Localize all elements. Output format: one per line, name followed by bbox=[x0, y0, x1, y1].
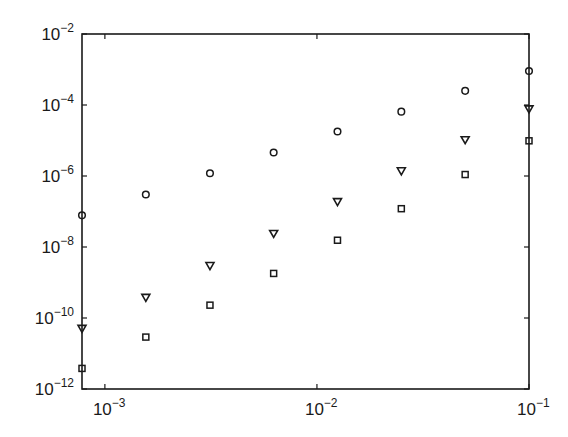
triangle-down-marker bbox=[270, 231, 278, 238]
triangle-down-marker bbox=[397, 168, 405, 175]
triangle-down-marker bbox=[333, 199, 341, 206]
y-tick-label: 10−6 bbox=[41, 163, 74, 186]
square-marker bbox=[271, 270, 277, 276]
circle-marker bbox=[334, 128, 341, 135]
log-log-scatter-chart: 10−310−210−1 10−210−410−610−810−1010−12 bbox=[0, 0, 568, 437]
square-marker bbox=[207, 302, 213, 308]
triangle-down-marker bbox=[142, 294, 150, 301]
x-tick-label: 10−1 bbox=[517, 396, 550, 419]
square-marker bbox=[398, 206, 404, 212]
circle-marker bbox=[398, 108, 405, 115]
y-tick-label: 10−12 bbox=[35, 376, 75, 399]
data-series bbox=[78, 68, 533, 372]
x-tick-label: 10−3 bbox=[93, 396, 126, 419]
x-axis-ticks: 10−310−210−1 bbox=[93, 34, 550, 419]
series-squares bbox=[79, 138, 532, 372]
circle-marker bbox=[462, 88, 469, 95]
triangle-down-marker bbox=[461, 137, 469, 144]
x-tick-label: 10−2 bbox=[305, 396, 338, 419]
y-tick-label: 10−2 bbox=[41, 21, 74, 44]
circle-marker bbox=[143, 191, 150, 198]
circle-marker bbox=[270, 149, 277, 156]
y-tick-label: 10−4 bbox=[41, 92, 74, 115]
y-tick-label: 10−10 bbox=[35, 305, 75, 328]
square-marker bbox=[143, 334, 149, 340]
triangle-down-marker bbox=[206, 263, 214, 270]
circle-marker bbox=[207, 170, 214, 177]
square-marker bbox=[334, 237, 340, 243]
square-marker bbox=[462, 172, 468, 178]
y-axis-ticks: 10−210−410−610−810−1010−12 bbox=[35, 21, 529, 399]
series-triangles bbox=[78, 106, 533, 333]
y-tick-label: 10−8 bbox=[41, 234, 74, 257]
